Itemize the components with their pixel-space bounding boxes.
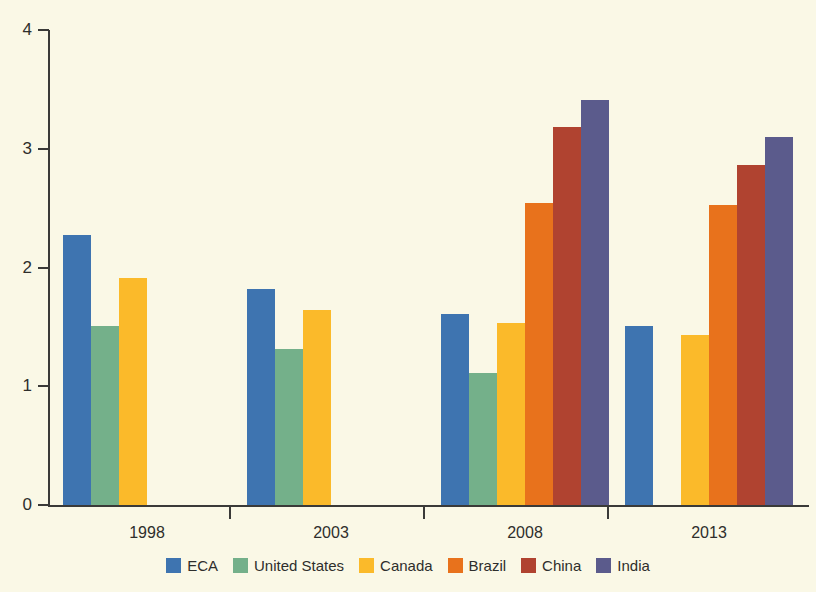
y-tick-label-4: 4 (0, 21, 32, 38)
bar-united-states-2008 (469, 373, 497, 505)
legend-item-eca: ECA (166, 558, 218, 573)
bar-canada-2013 (681, 335, 709, 505)
legend-label: Canada (380, 558, 433, 573)
legend-item-china: China (521, 558, 581, 573)
legend-swatch-icon (448, 558, 463, 573)
legend-swatch-icon (233, 558, 248, 573)
bar-india-2008 (581, 100, 609, 505)
y-tick-label-3: 3 (0, 140, 32, 157)
bar-eca-2003 (247, 289, 275, 505)
legend-label: Brazil (469, 558, 507, 573)
legend-label: China (542, 558, 581, 573)
x-axis-label-2003: 2003 (271, 525, 391, 541)
y-tick-label-1: 1 (0, 377, 32, 394)
plot-area: 01234 1998200320082013 (0, 0, 816, 592)
y-tick-0 (38, 504, 49, 506)
bar-canada-2003 (303, 310, 331, 505)
y-tick-4 (38, 29, 49, 31)
chart-legend: ECAUnited StatesCanadaBrazilChinaIndia (0, 558, 816, 573)
bar-chart: 01234 1998200320082013 ECAUnited StatesC… (0, 0, 816, 592)
bar-united-states-1998 (91, 326, 119, 505)
bar-united-states-2003 (275, 349, 303, 505)
legend-swatch-icon (166, 558, 181, 573)
legend-label: United States (254, 558, 344, 573)
x-tick-2003 (229, 507, 231, 519)
bar-eca-2013 (625, 326, 653, 505)
legend-item-india: India (596, 558, 650, 573)
bar-canada-1998 (119, 278, 147, 505)
legend-item-united-states: United States (233, 558, 344, 573)
y-tick-2 (38, 267, 49, 269)
legend-swatch-icon (596, 558, 611, 573)
y-tick-label-0: 0 (0, 496, 32, 513)
bar-brazil-2008 (525, 203, 553, 505)
legend-item-brazil: Brazil (448, 558, 507, 573)
bar-eca-2008 (441, 314, 469, 505)
x-axis-line (48, 505, 809, 507)
bar-india-2013 (765, 137, 793, 505)
bar-china-2008 (553, 127, 581, 505)
legend-swatch-icon (521, 558, 536, 573)
bar-china-2013 (737, 165, 765, 505)
legend-label: ECA (187, 558, 218, 573)
bar-canada-2008 (497, 323, 525, 505)
legend-item-canada: Canada (359, 558, 433, 573)
y-tick-3 (38, 148, 49, 150)
y-tick-label-2: 2 (0, 259, 32, 276)
x-tick-2013 (607, 507, 609, 519)
x-axis-label-2013: 2013 (649, 525, 769, 541)
bar-eca-1998 (63, 235, 91, 505)
y-tick-1 (38, 385, 49, 387)
x-axis-label-2008: 2008 (465, 525, 585, 541)
legend-label: India (617, 558, 650, 573)
legend-swatch-icon (359, 558, 374, 573)
bar-brazil-2013 (709, 205, 737, 505)
x-tick-2008 (423, 507, 425, 519)
x-axis-label-1998: 1998 (87, 525, 207, 541)
